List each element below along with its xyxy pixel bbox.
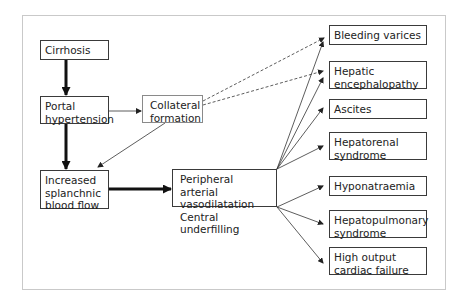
node-label-line: Hepatopulmonary — [334, 214, 422, 227]
node-label-line: syndrome — [334, 149, 422, 162]
arrow-peripheral-to-encephalopathy — [277, 78, 323, 169]
node-label-line: blood flow — [45, 199, 104, 212]
node-label: Ascites — [334, 103, 371, 115]
node-increased-splanchnic-blood-flow: Increased splanchnic blood flow — [40, 170, 109, 209]
node-high-output-cardiac-failure: High output cardiac failure — [329, 247, 427, 275]
node-label-line: cardiac failure — [334, 264, 422, 277]
node-label: Bleeding varices — [334, 29, 421, 41]
node-label-line: Collateral — [150, 99, 198, 112]
node-label: Cirrhosis — [45, 44, 90, 56]
node-label-line: Portal — [45, 100, 104, 113]
node-label-line: vasodilatation — [180, 198, 272, 211]
node-label-line: Hepatorenal — [334, 136, 422, 149]
node-label: Hyponatraemia — [334, 180, 415, 192]
arrow-peripheral-to-hyponatraemia — [277, 186, 323, 207]
node-label-line: Central underfilling — [180, 211, 272, 236]
dashed-arrow-collateral-to-encephalopathy — [203, 71, 323, 105]
node-label-line: High output — [334, 251, 422, 264]
node-label-line: Increased — [45, 174, 104, 187]
arrow-collateral-to-splanchnic — [98, 123, 165, 167]
arrow-peripheral-to-varices — [277, 42, 323, 169]
arrow-peripheral-to-ascites — [277, 108, 323, 169]
node-portal-hypertension: Portal hypertension — [40, 96, 109, 124]
node-cirrhosis: Cirrhosis — [40, 40, 109, 60]
node-label-line: splanchnic — [45, 187, 104, 200]
node-hyponatraemia: Hyponatraemia — [329, 176, 427, 196]
node-label-line: hypertension — [45, 113, 104, 126]
node-ascites: Ascites — [329, 99, 427, 119]
node-hepatic-encephalopathy: Hepatic encephalopathy — [329, 61, 427, 89]
node-label-line: formation — [150, 112, 198, 125]
node-hepatorenal-syndrome: Hepatorenal syndrome — [329, 132, 427, 160]
node-bleeding-varices: Bleeding varices — [329, 25, 427, 45]
node-hepatopulmonary-syndrome: Hepatopulmonary syndrome — [329, 210, 427, 238]
node-label-line: syndrome — [334, 227, 422, 240]
node-label-line: Hepatic — [334, 65, 422, 78]
node-label-line: encephalopathy — [334, 78, 422, 91]
node-collateral-formation: Collateral formation — [142, 95, 203, 123]
node-label-line: Peripheral arterial — [180, 173, 272, 198]
dashed-arrow-collateral-to-varices — [203, 38, 324, 101]
node-peripheral-vasodilatation: Peripheral arterial vasodilatation Centr… — [172, 169, 277, 207]
